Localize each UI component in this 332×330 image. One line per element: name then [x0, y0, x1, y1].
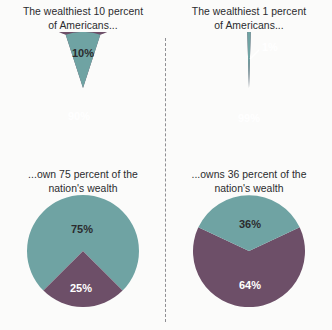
pie-chart-bottom-left: 75% 25%: [0, 195, 166, 307]
pie-slice-minor: [66, 32, 101, 88]
pie-label-minor: 25%: [70, 282, 92, 294]
heading-line-1: ...owns 36 percent of the: [170, 168, 328, 182]
pie-label-minor: 1%: [262, 41, 278, 53]
pie-label-major: 75%: [71, 223, 93, 235]
pie-slice-minor: [247, 32, 251, 88]
pie-label-minor: 36%: [239, 218, 261, 230]
pie-label-major: 90%: [68, 110, 90, 122]
pie-chart-top-right: 1% 99%: [166, 32, 332, 144]
panel-bottom-right: ...owns 36 percent of the nation's wealt…: [166, 163, 332, 328]
heading-line-2: of Americans...: [4, 19, 162, 33]
pie-chart-top-left: 10% 90%: [0, 32, 166, 144]
panel-bottom-left-heading: ...own 75 percent of the nation's wealth: [4, 168, 162, 195]
pie-leader-line: [250, 50, 259, 59]
panel-bottom-left: ...own 75 percent of the nation's wealth…: [0, 163, 166, 328]
pie-chart-bottom-right: 36% 64%: [166, 195, 332, 307]
panel-bottom-right-heading: ...owns 36 percent of the nation's wealt…: [170, 168, 328, 195]
panel-top-left: The wealthiest 10 percent of Americans..…: [0, 0, 166, 165]
heading-line-1: ...own 75 percent of the: [4, 168, 162, 182]
pie-label-major: 99%: [238, 112, 260, 124]
heading-line-2: nation's wealth: [4, 182, 162, 196]
panel-top-left-heading: The wealthiest 10 percent of Americans..…: [4, 5, 162, 32]
panel-top-right-heading: The wealthiest 1 percent of Americans...: [170, 5, 328, 32]
panel-top-right: The wealthiest 1 percent of Americans...…: [166, 0, 332, 165]
pie-label-major: 64%: [239, 279, 261, 291]
wealth-distribution-pie-figure: The wealthiest 10 percent of Americans..…: [0, 0, 332, 330]
pie-label-minor: 10%: [72, 47, 94, 59]
heading-line-2: nation's wealth: [170, 182, 328, 196]
heading-line-1: The wealthiest 10 percent: [4, 5, 162, 19]
heading-line-2: of Americans...: [170, 19, 328, 33]
heading-line-1: The wealthiest 1 percent: [170, 5, 328, 19]
